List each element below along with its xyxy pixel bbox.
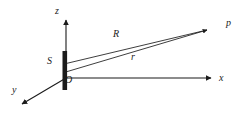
ray-r (64, 30, 207, 64)
axis-label-x: x (219, 73, 223, 83)
ray-label-r: r (131, 52, 135, 62)
axis-y (22, 78, 66, 104)
ray-label-R: R (113, 29, 119, 39)
point-label-origin: O (65, 75, 72, 85)
axis-label-z: z (55, 6, 59, 16)
diagram-svg (0, 0, 239, 115)
axis-label-y: y (12, 85, 16, 95)
figure-canvas: z x y S O p R r (0, 0, 239, 115)
ray-R (64, 30, 207, 73)
point-label-source: S (47, 56, 52, 66)
point-label-field-point: p (226, 18, 231, 28)
